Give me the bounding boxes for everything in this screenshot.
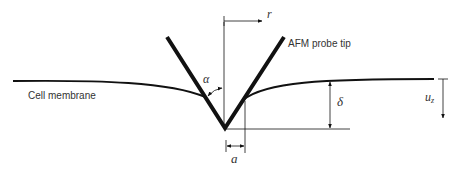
diagram-svg: r AFM probe tip α Cell membrane δ uz a — [0, 0, 460, 172]
alpha-label: α — [203, 72, 210, 86]
membrane-label: Cell membrane — [28, 90, 96, 101]
alpha-angle-arc — [208, 88, 222, 96]
a-label: a — [231, 151, 238, 166]
r-label: r — [267, 7, 272, 21]
probe-label: AFM probe tip — [288, 38, 351, 49]
uz-label: uz — [425, 90, 435, 105]
afm-probe-tip — [167, 37, 284, 128]
afm-indentation-diagram: r AFM probe tip α Cell membrane δ uz a — [0, 0, 460, 172]
delta-label: δ — [337, 94, 344, 109]
